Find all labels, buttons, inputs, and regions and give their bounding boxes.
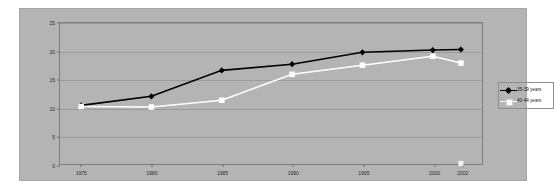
data-point-square [149,104,155,110]
y-tick-label: 10 [49,106,55,111]
y-tick-label: 20 [49,49,55,54]
y-tick-label: 0 [52,164,55,169]
data-point-diamond [359,49,365,55]
series-layer [60,23,482,164]
chart-panel: 0510152025 1975198019851990199520002002 … [19,8,527,181]
x-tick-mark [222,164,223,167]
x-tick-label: 1980 [146,171,157,176]
square-marker-icon [506,99,513,106]
x-tick-mark [81,164,82,167]
x-tick-mark [363,164,364,167]
data-point-square [78,104,84,110]
legend-key-40-44 [500,97,517,106]
x-tick-mark [293,164,294,167]
legend-label-35-39: 35-39 years [517,88,541,93]
data-point-square [360,63,366,69]
x-tick-label: 1995 [358,171,369,176]
series-line [81,56,461,107]
data-point-diamond [219,67,225,73]
data-point-diamond [148,93,154,99]
legend-label-40-44: 40-44 years [517,99,541,104]
diamond-marker-icon [505,87,512,94]
legend-item-40-44: 40-44 years [500,96,552,107]
legend-key-35-39 [500,86,517,95]
series-line [81,50,461,106]
y-tick-mark [57,166,60,167]
x-tick-label: 2000 [429,171,440,176]
stray-marker-2002-zero [458,161,463,166]
chart-legend: 35-39 years 40-44 years [498,82,554,109]
plot-area: 0510152025 1975198019851990199520002002 [59,22,483,165]
x-tick-label: 1985 [217,171,228,176]
x-tick-mark [434,164,435,167]
data-point-square [289,72,295,78]
series-1 [78,46,464,108]
data-point-square [458,60,464,66]
data-point-square [430,54,436,60]
y-tick-label: 5 [52,135,55,140]
data-point-diamond [430,47,436,53]
data-point-diamond [289,61,295,67]
y-tick-label: 25 [49,21,55,26]
x-tick-mark [151,164,152,167]
x-tick-label: 2002 [457,171,468,176]
data-point-diamond [458,46,464,52]
y-tick-label: 15 [49,78,55,83]
x-tick-label: 1975 [76,171,87,176]
x-tick-label: 1990 [288,171,299,176]
legend-item-35-39: 35-39 years [500,85,552,96]
data-point-square [219,98,225,104]
series-2 [78,54,463,110]
